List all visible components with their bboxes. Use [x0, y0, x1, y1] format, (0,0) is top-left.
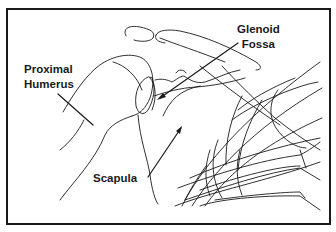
ribcage-drawing	[175, 62, 322, 210]
scapula-label: Scapula	[93, 171, 137, 186]
label-line-humerus: Humerus	[24, 77, 74, 92]
scapula-leader-line	[148, 128, 181, 177]
label-line-glenoid: Glenoid	[237, 22, 280, 37]
label-line-proximal: Proximal	[24, 62, 74, 77]
glenoid-fossa-label: Glenoid Fossa	[237, 22, 280, 52]
scapula-arrowhead-icon	[176, 126, 182, 134]
proximal-humerus-label: Proximal Humerus	[24, 62, 74, 92]
label-line-fossa: Fossa	[237, 37, 280, 52]
humerus-leader-line	[58, 94, 93, 125]
shoulder-illustration	[0, 0, 336, 232]
